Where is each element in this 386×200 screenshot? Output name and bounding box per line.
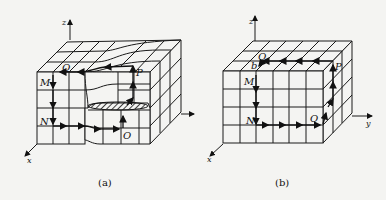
caption-b: (b) [275,177,289,188]
hatched-section-a [88,102,148,110]
caption-a: (a) [98,177,112,188]
point-label-n-b: N [245,115,256,126]
point-label-o-a: O [123,130,131,141]
figure-svg: z x [0,0,386,200]
panel-b: z x y [207,16,372,188]
point-label-m-a: M [39,77,51,88]
point-label-b-b: b [251,60,257,71]
figure: z x [0,0,386,200]
point-label-p-b: P [334,61,342,72]
point-label-m-b: M [243,76,255,87]
x-axis-b [210,144,223,156]
point-label-o-b: O [310,113,318,124]
x-axis-a [25,144,37,156]
point-label-q-b: Q [258,51,266,62]
x-axis-label-b: x [207,155,212,164]
x-axis-label-a: x [27,156,32,165]
z-axis-label-b: z [248,17,254,26]
panel-a: z x [25,18,194,188]
point-label-n-a: N [39,116,50,127]
z-axis-label-a: z [61,18,67,27]
point-label-q-a: Q [62,62,70,73]
y-axis-label-b: y [365,119,371,128]
point-label-p-a: P [135,67,143,78]
